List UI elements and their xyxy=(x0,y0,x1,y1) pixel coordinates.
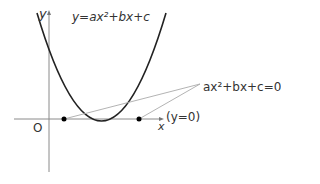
parabola-curve xyxy=(37,13,166,121)
roots-label: ax²+bx+c=0의 해 xyxy=(203,77,281,94)
origin-label: O xyxy=(33,121,42,135)
x-axis-equation-label: (y=0) xyxy=(166,110,200,124)
root-point-left xyxy=(62,117,67,122)
y-axis-arrow-icon xyxy=(47,10,51,15)
equation-label: y=ax²+bx+c xyxy=(72,10,150,24)
x-axis-label: x xyxy=(158,120,165,133)
root-point-right xyxy=(137,117,142,122)
y-axis-label: y xyxy=(39,6,47,21)
